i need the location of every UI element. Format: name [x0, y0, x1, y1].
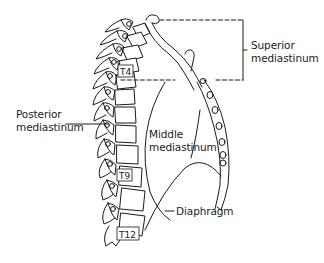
- label-posterior-line2: mediastinum: [16, 121, 84, 134]
- svg-text:T12: T12: [118, 230, 136, 240]
- thoracic-spine: [93, 19, 150, 246]
- vertebra-label-t12: T12: [117, 227, 139, 240]
- label-superior-line2: mediastinum: [251, 52, 319, 65]
- label-superior-line1: Superior: [251, 39, 319, 52]
- label-posterior-mediastinum: Posterior mediastinum: [16, 108, 84, 134]
- label-diaphragm: Diaphragm: [176, 205, 234, 218]
- svg-text:T4: T4: [119, 67, 131, 77]
- sternum: [145, 15, 229, 210]
- label-superior-mediastinum: Superior mediastinum: [251, 39, 319, 65]
- svg-text:T9: T9: [118, 171, 130, 181]
- label-middle-line1: Middle: [149, 128, 217, 141]
- label-posterior-line1: Posterior: [16, 108, 84, 121]
- vertebra-label-t4: T4: [118, 65, 133, 77]
- label-middle-mediastinum: Middle mediastinum: [149, 128, 217, 154]
- diaphragm-curve: [145, 163, 221, 230]
- label-middle-line2: mediastinum: [149, 141, 217, 154]
- vertebra-label-t9: T9: [117, 169, 132, 181]
